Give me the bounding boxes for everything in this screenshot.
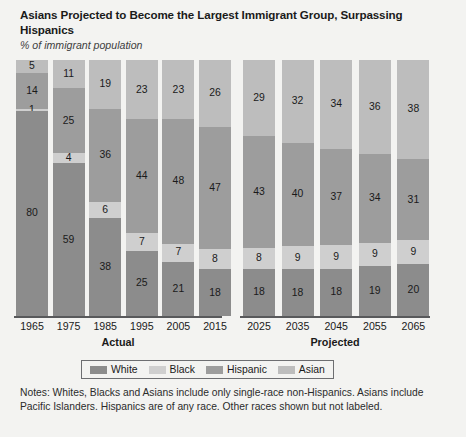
- bar-1995: 2344725: [126, 60, 158, 316]
- bar-segment-value: 7: [139, 237, 145, 247]
- legend-swatch-black: [149, 366, 166, 374]
- bar-segment-asian: 5: [16, 60, 48, 73]
- bar-segment-black: 7: [162, 244, 194, 262]
- bar-2045: 3437918: [320, 60, 352, 316]
- bar-segment-asian: 38: [397, 60, 429, 159]
- bar-segment-white: 80: [16, 111, 48, 316]
- bar-segment-white: 18: [282, 269, 314, 316]
- bar-segment-white: 18: [199, 269, 231, 316]
- chart-subtitle: % of immigrant population: [20, 39, 142, 51]
- bar-segment-value: 31: [408, 195, 420, 205]
- bar-segment-white: 59: [53, 163, 85, 316]
- bar-segment-hispanic: 34: [359, 154, 391, 243]
- legend-label-hispanic: Hispanic: [227, 364, 267, 375]
- bar-segment-white: 25: [126, 251, 158, 316]
- bar-segment-value: 18: [253, 287, 265, 297]
- legend-item-hispanic: Hispanic: [206, 364, 267, 375]
- bar-segment-value: 48: [173, 176, 185, 186]
- legend-item-asian: Asian: [278, 364, 325, 375]
- bar-segment-hispanic: 47: [199, 127, 231, 249]
- bar-segment-black: 8: [243, 248, 275, 269]
- bar-segment-value: 9: [295, 253, 301, 263]
- bar-2065: 3831920: [397, 60, 429, 316]
- bar-2005: 2348721: [162, 60, 194, 316]
- bar-segment-value: 7: [176, 247, 182, 257]
- bar-segment-hispanic: 48: [162, 119, 194, 243]
- bar-segment-value: 25: [63, 116, 75, 126]
- bar-segment-asian: 34: [320, 60, 352, 149]
- bar-segment-asian: 26: [199, 60, 231, 127]
- bar-segment-value: 26: [209, 88, 221, 98]
- bar-segment-asian: 11: [53, 60, 85, 88]
- bar-segment-value: 44: [136, 171, 148, 181]
- bar-segment-value: 38: [408, 104, 420, 114]
- bar-segment-asian: 23: [126, 60, 158, 119]
- bar-segment-value: 40: [292, 189, 304, 199]
- bar-segment-black: 6: [89, 202, 121, 218]
- legend-item-white: White: [90, 364, 138, 375]
- bar-segment-white: 38: [89, 218, 121, 316]
- bar-segment-black: 7: [126, 233, 158, 251]
- chart-canvas: Asians Projected to Become the Largest I…: [0, 0, 466, 437]
- bar-segment-value: 23: [136, 85, 148, 95]
- bar-segment-value: 37: [330, 192, 342, 202]
- legend-swatch-white: [90, 366, 107, 374]
- bar-segment-value: 36: [369, 102, 381, 112]
- bar-segment-value: 20: [408, 285, 420, 295]
- bar-segment-value: 11: [63, 69, 74, 79]
- bar-1965: 514180: [16, 60, 48, 316]
- bar-segment-asian: 19: [89, 60, 121, 109]
- legend-label-white: White: [111, 364, 138, 375]
- group-label-projected: Projected: [240, 336, 430, 348]
- bar-segment-value: 80: [26, 208, 38, 218]
- legend-swatch-hispanic: [206, 366, 223, 374]
- bar-segment-value: 18: [209, 288, 221, 298]
- bar-segment-value: 9: [333, 252, 339, 262]
- bar-segment-value: 8: [256, 253, 262, 263]
- bar-segment-black: 9: [397, 240, 429, 264]
- bar-segment-black: 9: [282, 246, 314, 269]
- bar-segment-value: 19: [369, 286, 381, 296]
- bar-segment-value: 18: [330, 287, 342, 297]
- bar-segment-hispanic: 43: [243, 136, 275, 248]
- bar-segment-value: 21: [173, 284, 185, 294]
- axis-line-projected: [240, 316, 430, 318]
- tick-label-2025: 2025: [243, 320, 275, 332]
- chart-notes: Notes: Whites, Blacks and Asians include…: [20, 386, 440, 413]
- chart-legend: WhiteBlackHispanicAsian: [81, 360, 334, 379]
- bar-segment-asian: 32: [282, 60, 314, 143]
- plot-area: 5141801125459193663823447252348721264781…: [0, 60, 466, 316]
- bar-segment-white: 18: [243, 269, 275, 316]
- bar-segment-black: 8: [199, 249, 231, 270]
- bar-segment-hispanic: 31: [397, 159, 429, 240]
- bar-segment-value: 34: [330, 99, 342, 109]
- tick-label-2015: 2015: [199, 320, 231, 332]
- group-label-actual: Actual: [14, 336, 222, 348]
- bar-2015: 2647818: [199, 60, 231, 316]
- chart-title: Asians Projected to Become the Largest I…: [20, 8, 440, 37]
- bar-segment-asian: 23: [162, 60, 194, 119]
- bar-segment-value: 59: [63, 235, 75, 245]
- bar-segment-white: 20: [397, 264, 429, 316]
- bar-segment-value: 9: [411, 247, 417, 257]
- bar-segment-value: 19: [99, 79, 111, 89]
- tick-label-1965: 1965: [16, 320, 48, 332]
- bar-segment-white: 19: [359, 266, 391, 316]
- tick-label-2065: 2065: [397, 320, 429, 332]
- bar-segment-value: 18: [292, 288, 304, 298]
- tick-label-2035: 2035: [282, 320, 314, 332]
- bar-2025: 2943818: [243, 60, 275, 316]
- bar-segment-black: 9: [359, 243, 391, 267]
- bar-segment-asian: 36: [359, 60, 391, 154]
- bar-segment-value: 6: [102, 205, 108, 215]
- bar-1985: 1936638: [89, 60, 121, 316]
- bar-segment-value: 47: [209, 183, 221, 193]
- tick-label-2045: 2045: [320, 320, 352, 332]
- bar-segment-white: 21: [162, 262, 194, 316]
- legend-item-black: Black: [149, 364, 195, 375]
- axis-line-actual: [14, 316, 222, 318]
- legend-label-black: Black: [170, 364, 195, 375]
- bar-1975: 1125459: [53, 60, 85, 316]
- bar-segment-hispanic: 36: [89, 109, 121, 202]
- bar-segment-hispanic: 44: [126, 119, 158, 233]
